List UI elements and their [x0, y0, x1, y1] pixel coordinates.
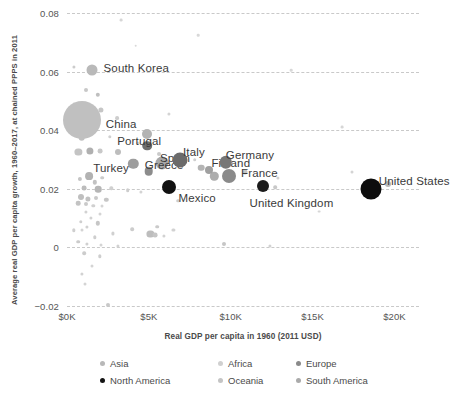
data-point[interactable]: [82, 186, 87, 191]
data-point-china[interactable]: [63, 101, 101, 139]
data-point-label-france: France: [241, 167, 278, 179]
data-point[interactable]: [290, 69, 293, 72]
data-point[interactable]: [77, 240, 81, 244]
data-point[interactable]: [341, 126, 344, 129]
data-point[interactable]: [350, 170, 353, 173]
data-point[interactable]: [108, 135, 111, 138]
data-point[interactable]: [90, 265, 93, 268]
data-point-south-korea[interactable]: [86, 65, 97, 76]
data-point[interactable]: [96, 221, 100, 225]
data-point[interactable]: [72, 229, 75, 232]
data-point[interactable]: [99, 244, 102, 247]
data-point[interactable]: [115, 149, 121, 155]
data-point[interactable]: [95, 186, 102, 193]
data-point[interactable]: [273, 186, 277, 190]
data-point[interactable]: [172, 228, 175, 231]
data-point-turkey[interactable]: [128, 159, 138, 169]
data-point[interactable]: [198, 164, 205, 171]
data-point-france[interactable]: [222, 169, 236, 183]
data-point[interactable]: [89, 217, 92, 220]
data-point[interactable]: [106, 303, 110, 307]
data-point[interactable]: [84, 202, 88, 206]
legend-item-south-america[interactable]: South America: [296, 375, 368, 386]
data-point[interactable]: [101, 205, 104, 208]
data-point[interactable]: [94, 196, 98, 200]
data-point[interactable]: [167, 112, 170, 115]
data-point[interactable]: [76, 201, 81, 206]
x-axis-tick-label: $5K: [140, 311, 157, 322]
data-point[interactable]: [98, 213, 101, 216]
legend-label: South America: [306, 375, 368, 386]
legend-label: Asia: [110, 358, 128, 369]
legend-item-north-america[interactable]: North America: [100, 375, 170, 386]
data-point[interactable]: [193, 158, 197, 162]
data-point[interactable]: [222, 242, 226, 246]
data-point[interactable]: [162, 235, 165, 238]
x-axis-tick-label: $20K: [383, 311, 406, 322]
data-point-mexico[interactable]: [162, 180, 176, 194]
y-axis-tick-label: −0.02: [34, 301, 59, 312]
legend-dot-icon: [218, 378, 223, 383]
gridline-y: [67, 247, 419, 248]
data-point[interactable]: [93, 180, 97, 184]
legend-item-oceania[interactable]: Oceania: [218, 375, 263, 386]
data-point[interactable]: [131, 227, 135, 231]
data-point[interactable]: [86, 148, 93, 155]
data-point[interactable]: [84, 211, 87, 214]
data-point[interactable]: [84, 88, 88, 92]
y-axis-tick-label: 0.08: [40, 8, 59, 19]
legend-dot-icon: [296, 378, 301, 383]
y-axis-tick-label: 0.02: [40, 183, 59, 194]
data-point[interactable]: [100, 176, 104, 180]
y-axis-tick-label: 0.06: [40, 66, 59, 77]
data-point[interactable]: [86, 196, 91, 201]
data-point[interactable]: [85, 242, 88, 245]
legend-item-africa[interactable]: Africa: [218, 358, 252, 369]
data-point[interactable]: [72, 66, 75, 69]
gridline-y: [67, 13, 419, 14]
data-point[interactable]: [126, 188, 130, 192]
data-point-label-united-kingdom: United Kingdom: [249, 197, 333, 209]
data-point[interactable]: [139, 190, 142, 193]
legend-label: North America: [110, 375, 170, 386]
y-axis-tick-label: 0: [54, 242, 59, 253]
y-axis-tick-labels: 0.080.060.040.020−0.02: [0, 0, 62, 399]
data-point[interactable]: [104, 197, 108, 201]
data-point-label-italy: Italy: [183, 146, 205, 158]
data-point[interactable]: [91, 204, 94, 207]
legend-item-asia[interactable]: Asia: [100, 358, 128, 369]
x-axis-title: Real GDP per capita in 1960 (2011 USD): [67, 332, 419, 341]
x-axis-tick-label: $0K: [58, 311, 75, 322]
data-point[interactable]: [97, 149, 102, 154]
data-point[interactable]: [134, 45, 137, 48]
data-point[interactable]: [80, 272, 83, 275]
data-point[interactable]: [84, 283, 87, 286]
data-point[interactable]: [93, 235, 96, 238]
data-point[interactable]: [96, 93, 100, 97]
data-point[interactable]: [155, 225, 159, 229]
data-point[interactable]: [85, 172, 93, 180]
data-point[interactable]: [79, 220, 82, 223]
data-point-label-united-states: United States: [379, 175, 450, 187]
y-axis-tick-label: 0.04: [40, 125, 59, 136]
data-point[interactable]: [82, 251, 86, 255]
gridline-y: [67, 130, 419, 131]
data-point[interactable]: [98, 254, 101, 257]
data-point-label-portugal: Portugal: [117, 135, 161, 147]
data-point[interactable]: [120, 19, 123, 22]
data-point-united-kingdom[interactable]: [257, 180, 269, 192]
data-point[interactable]: [75, 148, 82, 155]
data-point[interactable]: [197, 34, 200, 37]
data-point[interactable]: [80, 229, 83, 232]
data-point[interactable]: [111, 232, 114, 235]
data-point[interactable]: [85, 225, 88, 228]
data-point[interactable]: [78, 176, 82, 180]
data-point[interactable]: [318, 210, 321, 213]
data-point-label-south-korea: South Korea: [104, 62, 170, 74]
gridline-y: [67, 306, 419, 307]
legend-dot-icon: [100, 361, 105, 366]
data-point[interactable]: [78, 194, 84, 200]
data-point[interactable]: [153, 233, 158, 238]
legend-item-europe[interactable]: Europe: [296, 358, 337, 369]
